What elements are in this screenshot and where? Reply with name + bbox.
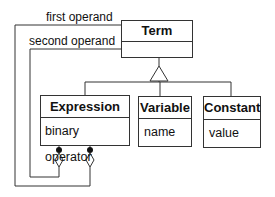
- class-expression-name: Expression: [41, 96, 129, 118]
- class-expression: Expression binary operator: [40, 95, 130, 146]
- class-term: Term: [121, 20, 193, 58]
- class-constant-name: Constant: [204, 97, 260, 120]
- class-variable-name: Variable: [139, 97, 191, 119]
- class-constant: Constant value: [203, 96, 261, 148]
- class-term-name: Term: [122, 21, 192, 42]
- generalization-triangle: [150, 66, 168, 81]
- class-variable-attributes: name: [139, 119, 191, 145]
- first-operand-label: first operand: [46, 10, 113, 24]
- second-operand-label: second operand: [29, 34, 115, 48]
- generalization-bus: [85, 82, 231, 96]
- class-expression-attributes: binary operator: [41, 118, 129, 170]
- class-constant-attributes: value: [204, 120, 260, 146]
- class-variable: Variable name: [138, 96, 192, 147]
